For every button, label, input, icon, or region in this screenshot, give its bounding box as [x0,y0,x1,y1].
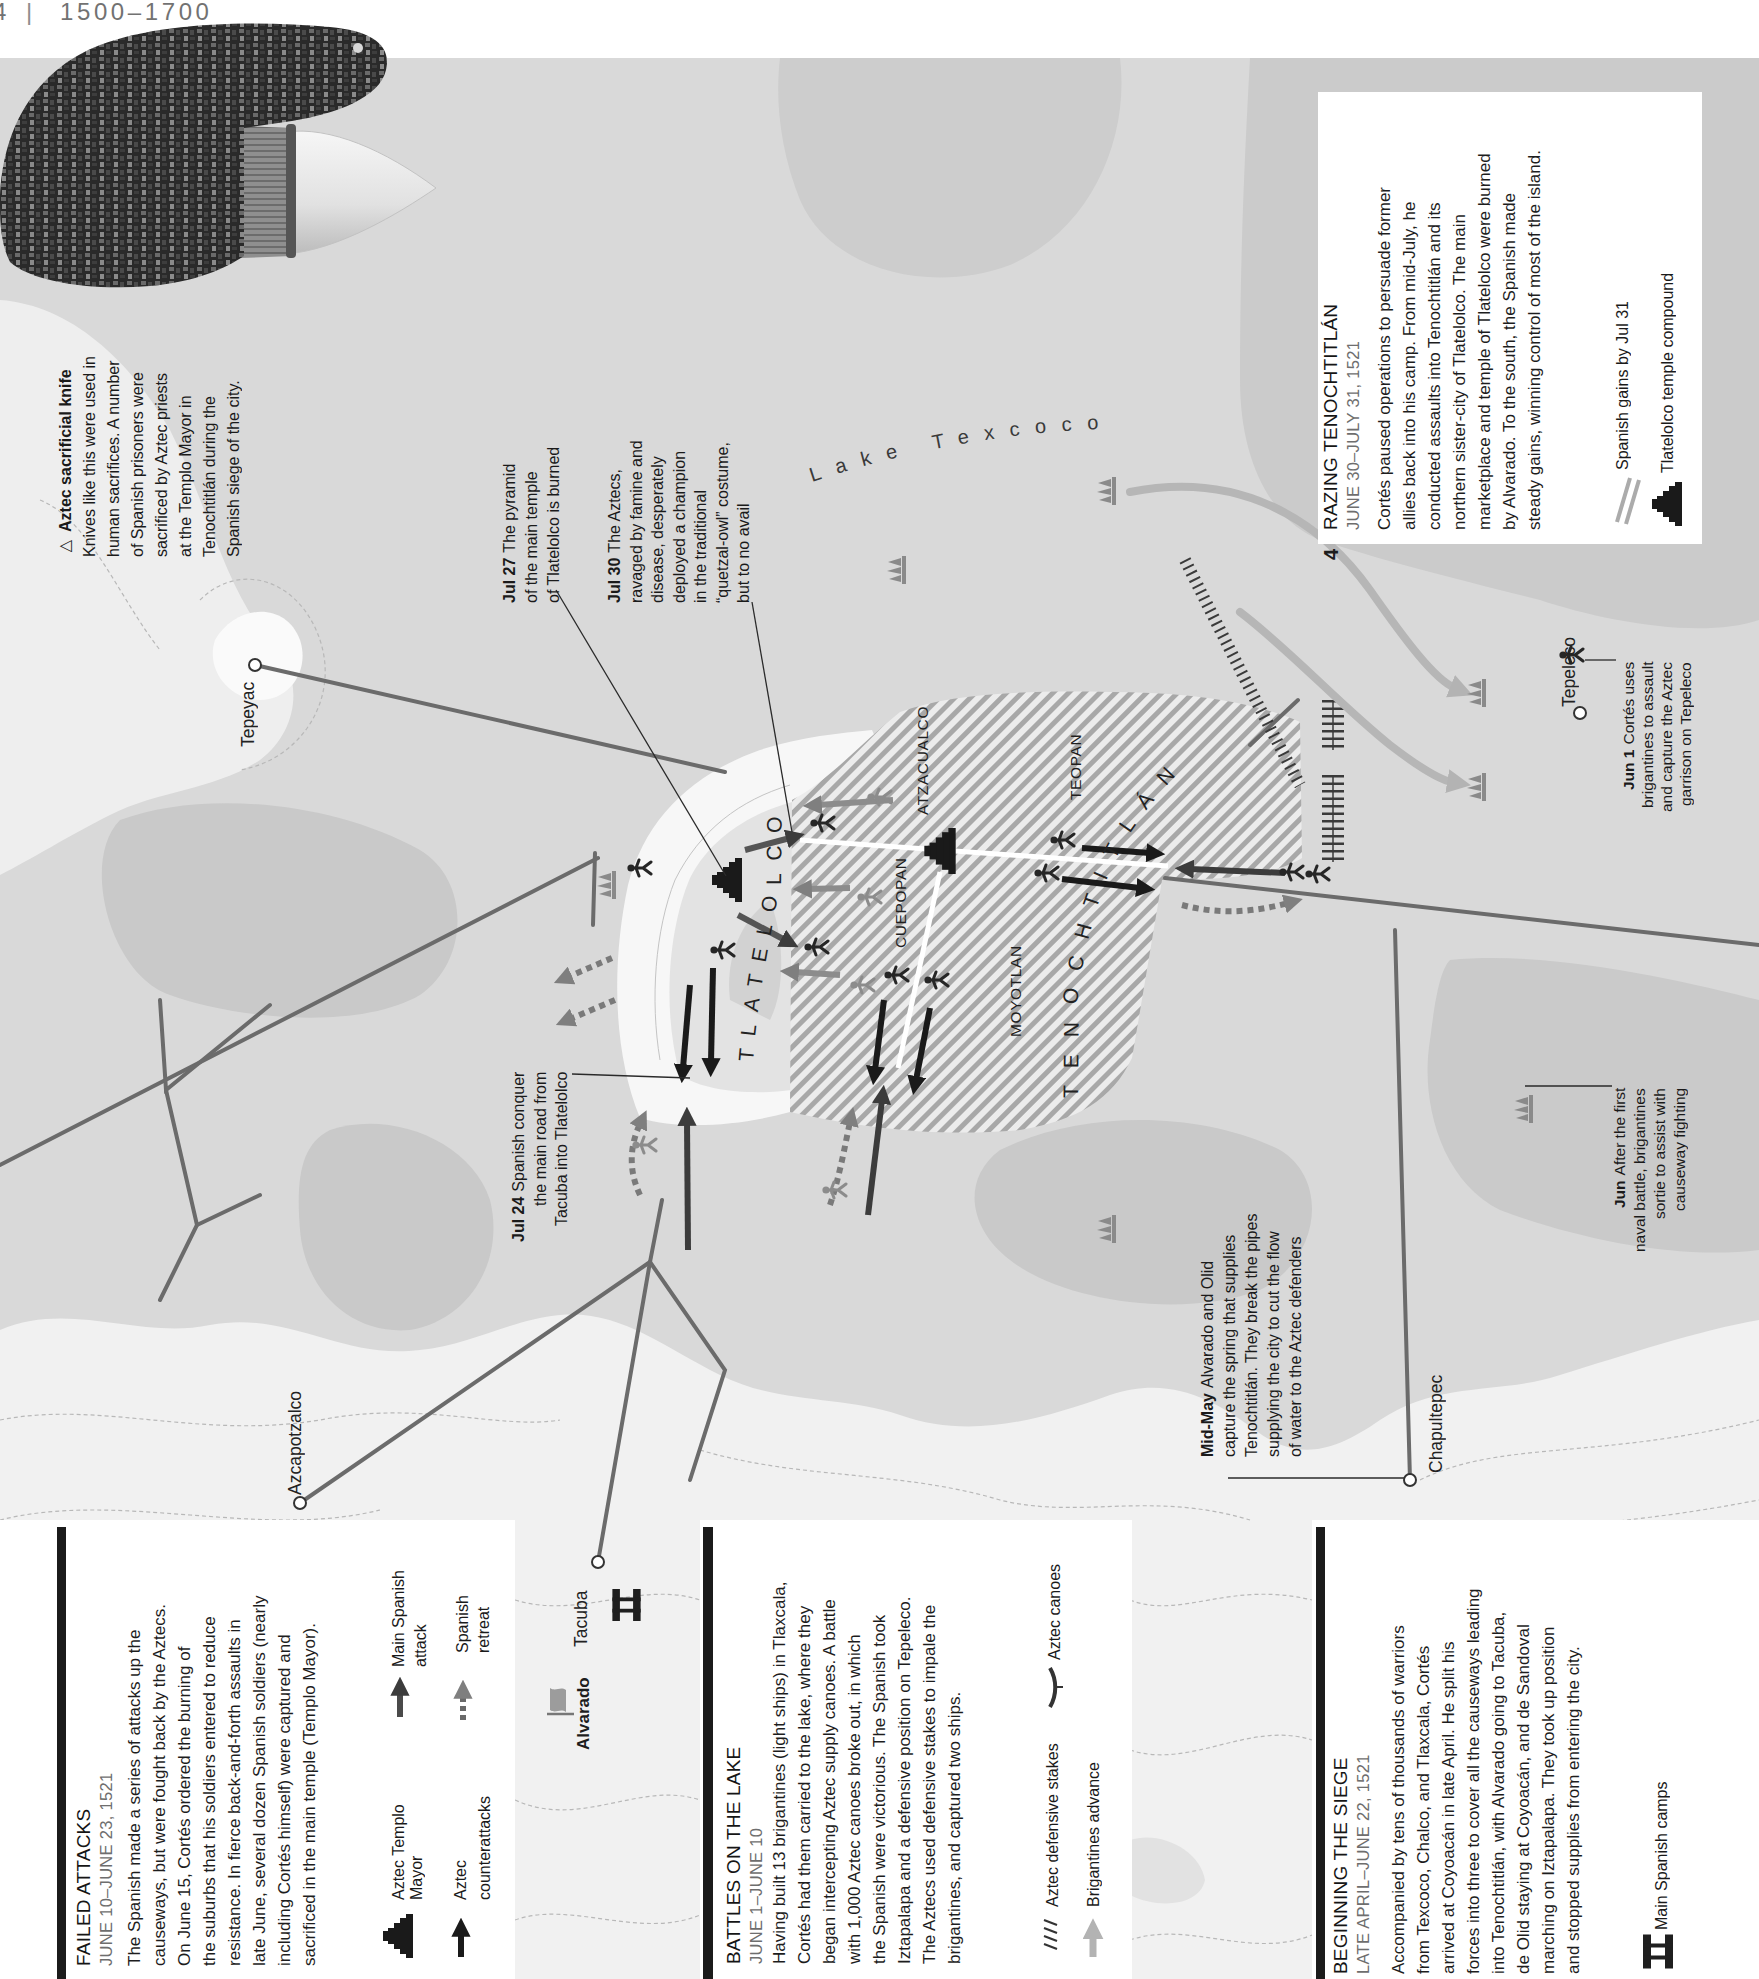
place-label-tacuba: Tacuba [571,1560,591,1647]
district-label-atzacualco: ATZACUALCO [914,690,932,815]
chapultepec-marker-icon [1404,1474,1416,1486]
section-body-line: sacrificed in the main temple (Templo Ma… [297,1521,322,1966]
legend-stakes-label: Aztec defensive stakes [1043,1720,1063,1907]
legend-spanish-gains-label: Spanish gains by Jul 31 [1613,290,1633,470]
annotation-jul24: Jul 24Spanish conquer the main road from… [508,1072,573,1272]
tepeleco-marker-icon [1574,707,1586,719]
section-body-line: Accompanied by tens of thousands of warr… [1386,1529,1411,1974]
section-body-line: arrived at Coyoacán in late April. He sp… [1436,1529,1461,1974]
annotation-date: Jun [1611,1181,1628,1209]
section-body-line: resistance. In fierce back-and-forth ass… [222,1521,247,1966]
knife-binding [240,126,292,258]
section-body-line: began intercepting Aztec supply canoes. … [817,1519,842,1964]
caption-line: Knives like this were used in [78,285,102,557]
section-dates: JUNE 1–JUNE 10 [745,1519,767,1964]
annotation-jun1: Jun 1Cortés uses brigantines to assault … [1619,662,1695,847]
section-title: BATTLES ON THE LAKE [723,1519,745,1964]
section-body-line: Having built 13 brigantines (light ships… [767,1519,792,1964]
place-label-tepeleco: Tepeleco [1559,630,1579,707]
section-body-line: into Tenochtitlán, with Alvarado going t… [1486,1529,1511,1974]
section-body-line: The Spanish made a series of attacks up … [122,1521,147,1966]
district-label-moyotlan: MOYOTLAN [1007,927,1025,1037]
district-label-cuepopan: CUEPOPAN [892,848,910,948]
page-number: 4 [0,0,6,27]
annotation-date: Jun 1 [1620,750,1637,790]
annotation-jun: JunAfter the first naval battle, brigant… [1610,1088,1690,1288]
section-battles-on-lake: BATTLES ON THE LAKE JUNE 1–JUNE 10 Havin… [723,1519,967,1964]
section-body-line: the suburbs that his soldiers entered to… [197,1521,222,1966]
caption-line: sacrificed by Aztec priests [150,285,174,557]
place-label-tepeyac: Tepeyac [238,660,258,747]
annotation-date: Jul 24 [510,1197,527,1242]
annotation-date: Jul 27 [501,558,518,603]
section-body-line: brigantines, and captured two ships. [942,1519,967,1964]
section-body-line: conducted assaults into Tenochtitlán and… [1422,90,1447,530]
caption-line: at the Templo Mayor in [174,285,198,557]
annotation-mid-may: Mid-MayAlvarado and Olid capture the spr… [1197,1180,1307,1457]
section-body-line: including Cortés himself) were captured … [272,1521,297,1966]
section-title: FAILED ATTACKS [73,1521,95,1966]
section-body-line: with 1,000 Aztec canoes broke out, in wh… [842,1519,867,1964]
legend-brigantines-label: Brigantines advance [1084,1740,1104,1907]
failed-attacks-rule [57,1527,66,1979]
battles-on-lake-rule [703,1527,713,1979]
section-body-line: causeways, but were fought back by the A… [147,1521,172,1966]
section-body-line: late June, several dozen Spanish soldier… [247,1521,272,1966]
legend-canoes-label: Aztec canoes [1045,1540,1065,1660]
annotation-date: Jul 30 [606,558,623,603]
legend-templo-mayor-label: Aztec Templo Mayor [390,1780,425,1900]
section-title: RAZING TENOCHTITLÁN [1320,90,1342,530]
section-body-line: allies back into his camp. From mid-July… [1397,90,1422,530]
chapter-period: 1500–1700 [60,0,213,27]
section-beginning-siege: BEGINNING THE SIEGE LATE APRIL–JUNE 22, … [1330,1529,1586,1974]
caption-line: Spanish siege of the city. [222,285,246,557]
caption-line: of Spanish prisoners were [126,285,150,557]
caption-line: Tenochtitlán during the [198,285,222,557]
annotation-jul30: Jul 30The Aztecs, ravaged by famine and … [604,330,755,603]
section-body-line: The Aztecs used defensive stakes to impa… [917,1519,942,1964]
district-label-teopan: TEOPAN [1067,720,1085,800]
place-label-chapultepec: Chapultepec [1426,1360,1446,1473]
section-body-line: northern sister-city of Tlatelolco. The … [1447,90,1472,530]
place-label-azcapotzalco: Azcapotzalco [285,1380,305,1495]
section-body-line: forces into three to cover all the cause… [1461,1529,1486,1974]
section-dates: JUNE 30–JULY 31, 1521 [1342,90,1364,530]
page-header: 4 | 1500–1700 [0,0,400,27]
legend-main-attack-label: Main Spanish attack [388,1540,431,1667]
section-body-line: marketplace and temple of Tlatelolco wer… [1472,90,1497,530]
section-body-line: from Texcoco, Chalco, and Tlaxcala, Cort… [1411,1529,1436,1974]
caption-line: human sacrifices. A number [102,285,126,557]
section-dates: LATE APRIL–JUNE 22, 1521 [1352,1529,1374,1974]
section-razing: RAZING TENOCHTITLÁN JUNE 30–JULY 31, 152… [1320,90,1547,530]
annotation-jul27: Jul 27The pyramid of the main temple of … [499,400,565,603]
section-body-line: de Olid staying at Coyoacán, and de Sand… [1511,1529,1536,1974]
section-body-line: by Alvarado. To the south, the Spanish m… [1497,90,1522,530]
commander-label-alvarado: Alvarado [574,1670,594,1750]
legend-counterattacks-label: Aztec counterattacks [449,1770,497,1900]
legend-retreat-label: Spanish retreat [453,1570,494,1653]
tacuba-marker-icon [592,1556,604,1568]
legend-temple-compound-label: Tlatelolco temple compound [1658,240,1678,473]
caption-title-text: Aztec sacrificial knife [57,369,74,532]
beginning-siege-rule [1316,1527,1325,1979]
knife-caption-title: ▷Aztec sacrificial knife [54,285,78,557]
section-body-line: On June 15, Cortés ordered the burning o… [172,1521,197,1966]
azcapotzalco-marker-icon [294,1497,306,1509]
section-body-line: Cortés paused operations to persuade for… [1372,90,1397,530]
section-body-line: Iztapalapa and a defensive position on T… [892,1519,917,1964]
legend-camps-label: Main Spanish camps [1652,1760,1672,1930]
section-number-4: 4 [1320,535,1342,560]
section-body-line: Cortés had them carried to the lake, whe… [792,1519,817,1964]
caption-pointer-icon: ▷ [57,538,74,557]
section-failed-attacks: FAILED ATTACKS JUNE 10–JUNE 23, 1521 The… [73,1521,322,1966]
section-body-line: the Spanish were victorious. The Spanish… [867,1519,892,1964]
knife-caption: ▷Aztec sacrificial knife Knives like thi… [54,285,246,557]
section-body-line: and stopped supplies from entering the c… [1561,1529,1586,1974]
section-dates: JUNE 10–JUNE 23, 1521 [95,1521,117,1966]
section-title: BEGINNING THE SIEGE [1330,1529,1352,1974]
annotation-date: Mid-May [1199,1393,1216,1457]
section-body-line: steady gains, winning control of most of… [1522,90,1547,530]
header-separator: | [26,0,32,27]
section-body-line: marching on Iztapalapa. They took up pos… [1536,1529,1561,1974]
